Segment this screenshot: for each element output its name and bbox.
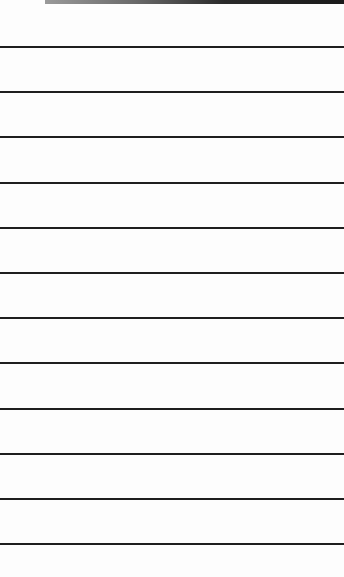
ruled-line [0, 136, 344, 138]
top-edge-strip [45, 0, 344, 4]
ruled-line [0, 317, 344, 319]
ruled-line [0, 91, 344, 93]
ruled-line [0, 408, 344, 410]
ruled-line [0, 543, 344, 545]
ruled-line [0, 182, 344, 184]
ruled-line [0, 46, 344, 48]
ruled-line [0, 498, 344, 500]
ruled-line [0, 362, 344, 364]
ruled-line [0, 272, 344, 274]
ruled-line [0, 227, 344, 229]
ruled-line [0, 453, 344, 455]
